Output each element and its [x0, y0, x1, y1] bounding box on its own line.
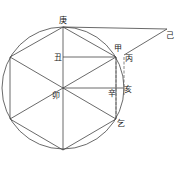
label-geng: 庚 [59, 17, 67, 25]
label-ji: 己 [166, 32, 174, 40]
ji-to-bing [124, 29, 167, 55]
label-jia: 甲 [114, 45, 122, 53]
label-bing: 丙 [125, 55, 133, 63]
geometry-figure [0, 0, 177, 173]
label-mao: 卯 [52, 92, 60, 100]
label-hai: 亥 [124, 86, 132, 94]
label-xin: 辛 [108, 90, 116, 98]
label-chou: 丑 [54, 54, 62, 62]
label-qi: 乞 [117, 120, 125, 128]
